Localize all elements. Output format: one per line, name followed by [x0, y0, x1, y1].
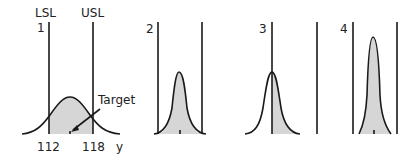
target-label: Target [97, 93, 135, 107]
panel-3: 3 [245, 22, 317, 134]
panel-4: 4 [340, 22, 397, 134]
panel-number-4: 4 [340, 22, 348, 36]
tick-118: 118 [82, 140, 105, 154]
tick-112: 112 [37, 140, 60, 154]
panel-2: 2 [146, 22, 206, 134]
panel-number-2: 2 [146, 22, 154, 36]
panel-1: LSL USL 1 Target 112 118 y [22, 6, 135, 154]
lsl-label: LSL [35, 6, 56, 20]
usl-label: USL [81, 6, 104, 20]
panel-number-1: 1 [37, 21, 45, 35]
spec-limit-figure: LSL USL 1 Target 112 118 y 2 3 4 [0, 0, 418, 162]
x-axis-label: y [116, 140, 123, 154]
panel-number-3: 3 [259, 22, 267, 36]
